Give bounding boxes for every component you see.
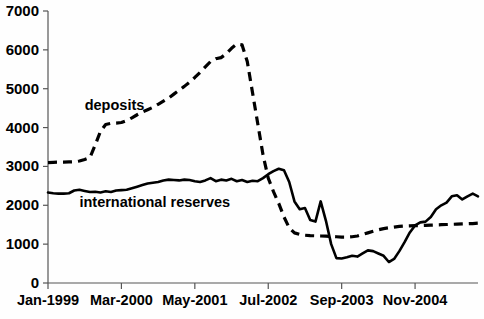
series-annotations: depositsinternational reserves [79, 97, 230, 210]
y-tick-label: 6000 [6, 41, 39, 58]
series-label-international-reserves: international reserves [79, 194, 230, 210]
x-tick-label: May-2001 [162, 292, 227, 308]
y-tick-labels: 01000200030004000500060007000 [6, 2, 39, 291]
y-axis-group: 01000200030004000500060007000 [6, 2, 48, 291]
x-tick-label: Mar-2000 [90, 292, 153, 308]
y-tick-label: 7000 [6, 2, 39, 19]
y-tick-marks [43, 11, 48, 283]
x-tick-label: Jul-2002 [239, 292, 297, 308]
x-tick-label: Sep-2003 [310, 292, 374, 308]
chart-container: 01000200030004000500060007000 Jan-1999Ma… [0, 0, 484, 319]
y-tick-label: 4000 [6, 119, 39, 136]
series-label-deposits: deposits [85, 97, 145, 113]
y-tick-label: 3000 [6, 157, 39, 174]
x-tick-marks [48, 283, 415, 289]
y-tick-label: 1000 [6, 235, 39, 252]
y-tick-label: 2000 [6, 196, 39, 213]
series-group [48, 44, 478, 262]
series-line-international-reserves [48, 169, 478, 262]
x-tick-label: Jan-1999 [17, 292, 79, 308]
x-axis-group: Jan-1999Mar-2000May-2001Jul-2002Sep-2003… [17, 283, 478, 308]
y-tick-label: 0 [31, 274, 39, 291]
x-tick-label: Nov-2004 [383, 292, 447, 308]
chart-svg: 01000200030004000500060007000 Jan-1999Ma… [0, 0, 484, 319]
x-tick-labels: Jan-1999Mar-2000May-2001Jul-2002Sep-2003… [17, 292, 447, 308]
y-tick-label: 5000 [6, 80, 39, 97]
